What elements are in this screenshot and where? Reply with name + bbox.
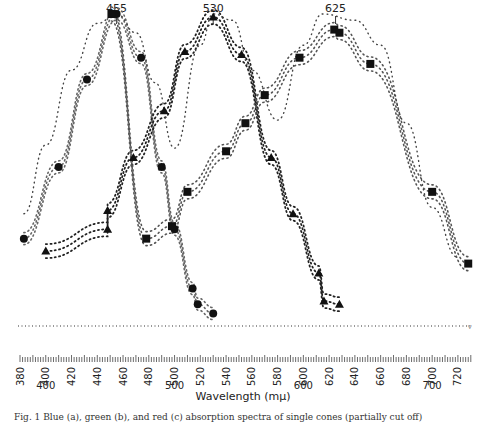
square-marker — [261, 91, 269, 99]
circle-marker — [20, 235, 28, 243]
tick-label-rotated: 720 — [452, 367, 463, 386]
square-marker — [168, 222, 176, 230]
tick-label-rotated: 440 — [92, 367, 103, 386]
chart-canvas: 455530625 ▿ 3804004204404604805005205405… — [0, 0, 487, 410]
tick-label-rotated: 480 — [143, 367, 154, 386]
tick-label-horizontal: 400 — [36, 380, 55, 391]
square-marker — [295, 54, 303, 62]
square-series-curve — [111, 21, 468, 271]
tick-label-rotated: 560 — [246, 367, 257, 386]
data-markers — [20, 10, 472, 318]
circle-marker — [55, 163, 63, 171]
circle-marker — [189, 285, 197, 293]
circle-marker — [137, 54, 145, 62]
tick-label-rotated: 580 — [272, 367, 283, 386]
tick-label-rotated: 620 — [324, 367, 335, 386]
plus-series-curve — [24, 14, 458, 257]
circle-marker — [194, 300, 202, 308]
square-marker — [335, 29, 343, 37]
triangle-marker — [314, 268, 323, 276]
square-marker — [464, 260, 472, 268]
tick-label-rotated: 640 — [349, 367, 360, 386]
tick-label-rotated: 460 — [118, 367, 129, 386]
square-series-curve — [111, 14, 468, 264]
curves — [24, 7, 468, 320]
triangle-marker — [335, 300, 344, 308]
peak-labels: 455530625 — [106, 2, 346, 24]
tick-label-horizontal: 700 — [423, 380, 442, 391]
x-axis: 3804004204404604805005205405605806006206… — [15, 355, 471, 391]
tick-label-rotated: 380 — [15, 367, 26, 386]
tick-label-rotated: 540 — [221, 367, 232, 386]
tick-label-horizontal: 600 — [294, 380, 313, 391]
peak-label: 625 — [325, 2, 346, 15]
square-marker — [222, 147, 230, 155]
triangle-marker — [41, 247, 50, 255]
square-marker — [241, 119, 249, 127]
tick-label-rotated: 680 — [401, 367, 412, 386]
tick-label-horizontal: 500 — [165, 380, 184, 391]
square-marker — [366, 60, 374, 68]
triangle-marker — [103, 225, 112, 233]
square-marker — [183, 188, 191, 196]
square-marker — [428, 188, 436, 196]
circle-marker — [209, 310, 217, 318]
circle-marker — [158, 163, 166, 171]
figure-caption: Fig. 1 Blue (a), green (b), and red (c) … — [14, 412, 422, 422]
square-marker — [142, 235, 150, 243]
tick-label-rotated: 420 — [66, 367, 77, 386]
baseline-end-mark: ▿ — [468, 323, 472, 331]
tick-label-rotated: 520 — [195, 367, 206, 386]
square-marker — [107, 10, 115, 18]
zero-baseline: ▿ — [18, 323, 472, 331]
x-axis-label: Wavelength (mμ) — [195, 390, 290, 403]
circle-marker — [83, 76, 91, 84]
tick-label-rotated: 660 — [375, 367, 386, 386]
triangle-series-curve — [46, 24, 340, 311]
